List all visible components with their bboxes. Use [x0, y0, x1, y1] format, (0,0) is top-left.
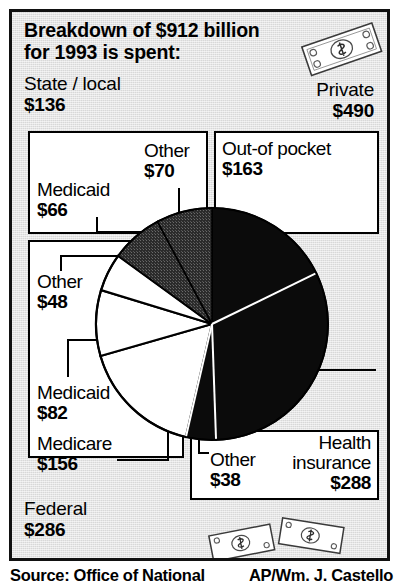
leader-other-48-v: [60, 255, 62, 271]
medicaid-66-name: Medicaid: [37, 179, 110, 200]
credit-note: AP/Wm. J. Castello: [249, 566, 393, 585]
label-other-38: Other $38: [210, 450, 256, 490]
private-group-label: Private $490: [316, 80, 374, 122]
federal-value: $286: [24, 520, 87, 541]
other-38-name: Other: [210, 449, 256, 470]
federal-name: Federal: [24, 498, 87, 519]
page-title: Breakdown of $912 billion for 1993 is sp…: [24, 20, 274, 64]
label-out-of-pocket: Out-of pocket $163: [222, 139, 331, 179]
state-local-value: $136: [24, 95, 121, 116]
federal-group-label: Federal $286: [24, 499, 87, 541]
health-insurance-value: $288: [275, 473, 371, 493]
private-name: Private: [316, 79, 374, 100]
infographic-root: Breakdown of $912 billion for 1993 is sp…: [0, 0, 399, 585]
health-insurance-name-2: insurance: [292, 452, 371, 473]
dollar-bills-icon: [202, 506, 362, 561]
other-70-value: $70: [144, 161, 190, 181]
label-other-70: Other $70: [144, 141, 190, 181]
other-48-name: Other: [37, 271, 83, 292]
out-of-pocket-name: Out-of pocket: [222, 138, 331, 159]
out-of-pocket-value: $163: [222, 159, 331, 179]
leader-medicaid-82-v: [67, 339, 69, 377]
other-48-value: $48: [37, 292, 83, 312]
graphic-frame: Breakdown of $912 billion for 1993 is sp…: [9, 9, 390, 561]
headline-line-1: Breakdown of $912 billion: [24, 19, 260, 41]
other-38-value: $38: [210, 470, 256, 490]
medicare-156-value: $156: [37, 454, 112, 474]
leader-medicare-156-h: [117, 459, 169, 461]
source-note: Source: Office of National: [10, 566, 205, 585]
leader-other-38-h: [198, 452, 209, 454]
private-value: $490: [316, 101, 374, 122]
label-other-48: Other $48: [37, 272, 83, 312]
pie-chart: [90, 202, 335, 447]
headline-line-2: for 1993 is spent:: [24, 41, 181, 63]
other-70-name: Other: [144, 140, 190, 161]
dollar-bill-icon: [292, 16, 390, 78]
state-local-name: State / local: [24, 73, 121, 94]
state-local-group-label: State / local $136: [24, 74, 121, 116]
